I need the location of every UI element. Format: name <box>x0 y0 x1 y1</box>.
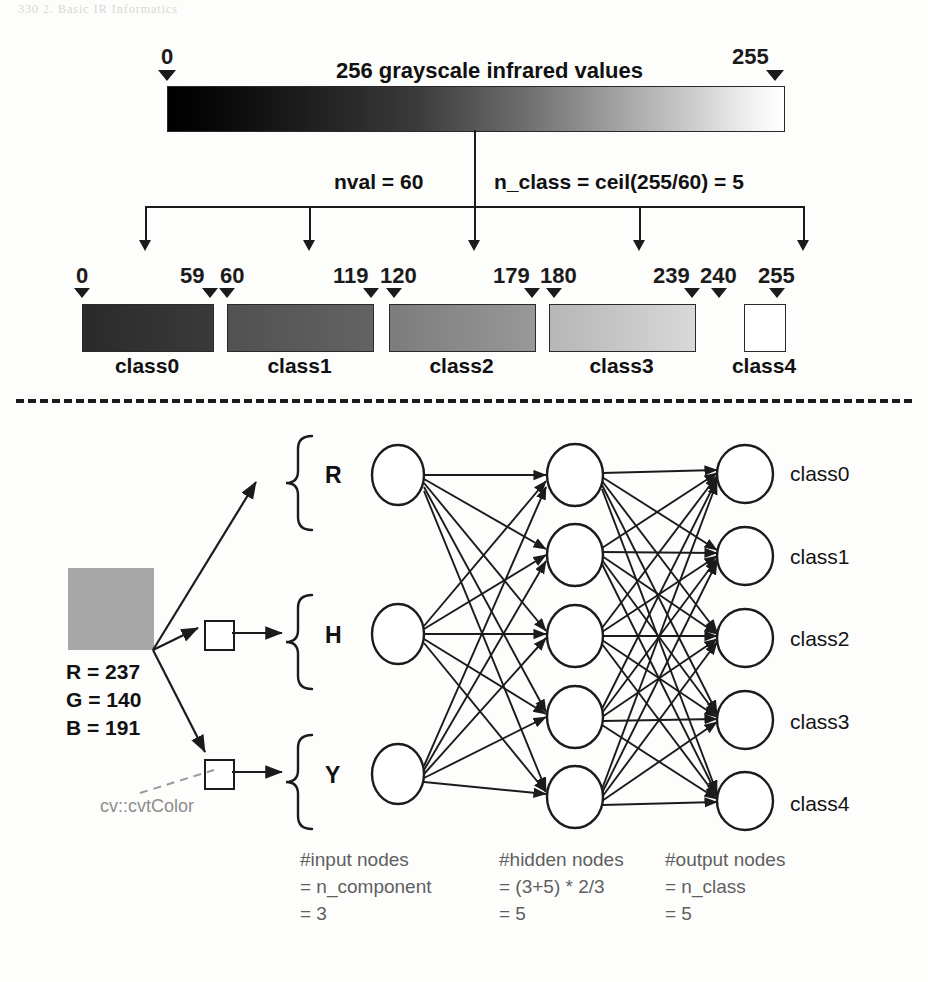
hidden-layer-nodes <box>547 444 603 828</box>
grayscale-end-marker-icon <box>766 70 784 81</box>
cvtcolor-box-y <box>204 759 235 790</box>
class2-start-marker-icon <box>386 288 402 298</box>
input-node-y <box>372 744 424 804</box>
class3-end-marker-icon <box>684 288 700 298</box>
class2-swatch <box>389 304 536 352</box>
component-label-y: Y <box>325 762 340 789</box>
pixel-g-value: G = 140 <box>66 688 141 712</box>
cvtcolor-label: cv::cvtColor <box>100 796 194 817</box>
class3-start-label: 180 <box>540 263 577 289</box>
hidden-node-1 <box>547 444 603 506</box>
class3-swatch <box>549 304 696 352</box>
class4-swatch <box>744 304 786 352</box>
cvtcolor-callout-line <box>140 770 214 793</box>
box-to-brace-arrows <box>232 633 282 772</box>
output-label-class1: class1 <box>790 545 850 569</box>
section-divider <box>16 399 912 403</box>
output-layer-nodes <box>717 445 773 830</box>
tree-drop-line-4 <box>803 206 805 244</box>
hidden-nodes-caption: #hidden nodes = (3+5) * 2/3 = 5 <box>499 847 624 928</box>
hidden-node-3 <box>547 605 603 667</box>
class0-end-marker-icon <box>202 288 218 298</box>
component-label-h: H <box>325 622 342 649</box>
tree-arrow-0-icon <box>139 240 151 251</box>
class0-end-label: 59 <box>180 263 204 289</box>
class2-end-marker-icon <box>524 288 540 298</box>
pixel-fanout-arrows <box>153 482 256 752</box>
output-node-class2 <box>717 609 773 667</box>
tree-arrow-1-icon <box>303 240 315 251</box>
output-node-class0 <box>717 445 773 503</box>
n-class-formula: n_class = ceil(255/60) = 5 <box>494 170 744 194</box>
class0-label: class0 <box>82 354 212 378</box>
input-node-r <box>372 445 424 505</box>
grayscale-end-label: 255 <box>732 44 769 70</box>
tree-arrow-4-icon <box>797 240 809 251</box>
diagram-root: 330 2. Basic IR Informatics 0 255 256 gr… <box>0 0 928 982</box>
class3-end-label: 239 <box>653 263 690 289</box>
cvtcolor-box-h <box>204 620 235 651</box>
grayscale-start-label: 0 <box>161 44 173 70</box>
class0-swatch <box>82 304 214 352</box>
class1-start-marker-icon <box>219 288 235 298</box>
class3-start-marker-icon <box>546 288 562 298</box>
edges-input-hidden <box>424 475 546 794</box>
class2-start-label: 120 <box>380 263 417 289</box>
class4-end-marker-icon <box>769 288 785 298</box>
input-nodes-caption: #input nodes = n_component = 3 <box>300 847 432 928</box>
edges-hidden-output <box>602 470 717 805</box>
class1-label: class1 <box>227 354 372 378</box>
class2-end-label: 179 <box>493 263 530 289</box>
tree-drop-line-1 <box>309 206 311 244</box>
input-layer-nodes <box>372 445 424 804</box>
grayscale-caption: 256 grayscale infrared values <box>336 58 643 84</box>
network-graphics-overlay <box>0 0 928 982</box>
class1-end-label: 119 <box>333 263 369 289</box>
input-node-h <box>372 604 424 664</box>
tree-drop-line-0 <box>145 206 147 244</box>
component-label-r: R <box>325 462 342 489</box>
class2-label: class2 <box>389 354 534 378</box>
hidden-node-2 <box>547 524 603 586</box>
output-label-class0: class0 <box>790 462 850 486</box>
hidden-node-4 <box>547 686 603 748</box>
class3-label: class3 <box>549 354 694 378</box>
page-header: 330 2. Basic IR Informatics <box>18 2 518 17</box>
grayscale-start-marker-icon <box>158 70 176 81</box>
tree-drop-line-3 <box>639 206 641 244</box>
output-node-class1 <box>717 527 773 585</box>
tree-arrow-3-icon <box>633 240 645 251</box>
pixel-r-value: R = 237 <box>66 660 140 684</box>
class4-label: class4 <box>722 354 806 378</box>
brace-h <box>286 595 312 689</box>
hidden-node-5 <box>547 766 603 828</box>
output-node-class4 <box>717 772 773 830</box>
class1-start-label: 60 <box>220 263 244 289</box>
output-label-class4: class4 <box>790 792 850 816</box>
class0-start-label: 0 <box>76 263 88 289</box>
component-braces <box>286 436 312 829</box>
tree-arrow-2-icon <box>468 240 480 251</box>
output-label-class3: class3 <box>790 710 850 734</box>
class0-start-marker-icon <box>74 288 90 298</box>
brace-r <box>286 436 312 530</box>
pixel-b-value: B = 191 <box>66 716 140 740</box>
output-node-class3 <box>717 691 773 749</box>
class4-start-label: 240 <box>700 263 737 289</box>
class4-end-label: 255 <box>758 263 795 289</box>
pixel-color-swatch <box>68 568 154 650</box>
tree-drop-line-2 <box>474 206 476 244</box>
grayscale-gradient-bar <box>167 86 785 132</box>
class1-swatch <box>227 304 374 352</box>
class4-start-marker-icon <box>711 288 727 298</box>
nval-formula: nval = 60 <box>334 170 423 194</box>
output-nodes-caption: #output nodes = n_class = 5 <box>665 847 785 928</box>
output-label-class2: class2 <box>790 627 850 651</box>
class1-end-marker-icon <box>363 288 379 298</box>
brace-y <box>286 735 312 829</box>
